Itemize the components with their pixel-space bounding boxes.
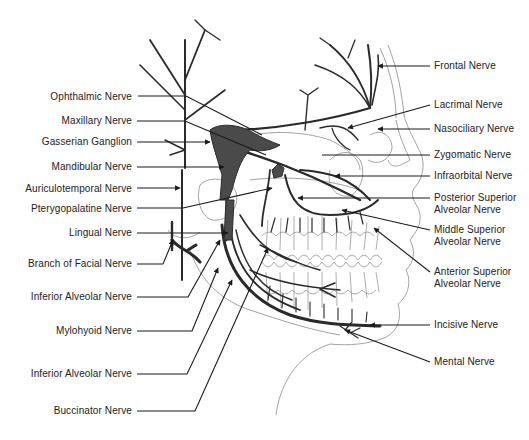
- label-line-2: Alveolar Nerve: [434, 204, 516, 216]
- label-infraorbital-nerve: Infraorbital Nerve: [434, 170, 513, 182]
- leader-anterior-superior-alveolar: [374, 228, 430, 272]
- label-buccinator-nerve: Buccinator Nerve: [54, 405, 132, 417]
- label-mylohyoid-nerve: Mylohyoid Nerve: [56, 325, 132, 337]
- label-middle-superior-alveolar-nerve: Middle Superior Alveolar Nerve: [434, 224, 506, 248]
- label-mental-nerve: Mental Nerve: [434, 356, 495, 368]
- leader-inferior-alveolar-1: [137, 240, 220, 297]
- label-lingual-nerve: Lingual Nerve: [69, 227, 132, 239]
- label-line-1: Middle Superior: [434, 224, 506, 236]
- teeth: [262, 216, 382, 310]
- label-line-1: Anterior Superior: [434, 266, 511, 278]
- leader-mental: [345, 330, 430, 362]
- label-ophthalmic-nerve: Ophthalmic Nerve: [50, 91, 132, 103]
- label-anterior-superior-alveolar-nerve: Anterior Superior Alveolar Nerve: [434, 266, 511, 290]
- leader-mylohyoid: [137, 268, 218, 331]
- label-zygomatic-nerve: Zygomatic Nerve: [434, 149, 511, 161]
- ganglion-shapes: [210, 125, 284, 240]
- label-line-1: Posterior Superior: [434, 192, 516, 204]
- label-gasserian-ganglion: Gasserian Ganglion: [42, 136, 132, 148]
- label-posterior-superior-alveolar-nerve: Posterior Superior Alveolar Nerve: [434, 192, 516, 216]
- label-mandibular-nerve: Mandibular Nerve: [51, 161, 132, 173]
- label-pterygopalatine-nerve: Pterygopalatine Nerve: [31, 203, 132, 215]
- leader-pterygopalatine: [137, 188, 272, 208]
- label-nasociliary-nerve: Nasociliary Nerve: [434, 123, 514, 135]
- label-inferior-alveolar-nerve-1: Inferior Alveolar Nerve: [31, 291, 132, 303]
- label-frontal-nerve: Frontal Nerve: [434, 60, 496, 72]
- leader-lacrimal: [348, 105, 430, 128]
- face-outline: [168, 45, 423, 415]
- label-incisive-nerve: Incisive Nerve: [434, 319, 498, 331]
- label-maxillary-nerve: Maxillary Nerve: [62, 115, 132, 127]
- label-branch-of-facial-nerve: Branch of Facial Nerve: [28, 258, 132, 270]
- label-auriculotemporal-nerve: Auriculotemporal Nerve: [25, 183, 132, 195]
- label-inferior-alveolar-nerve-2: Inferior Alveolar Nerve: [31, 368, 132, 380]
- label-line-2: Alveolar Nerve: [434, 278, 511, 290]
- leader-buccinator: [137, 248, 268, 411]
- nerve-diagram: Ophthalmic Nerve Maxillary Nerve Gasseri…: [0, 0, 529, 440]
- leader-middle-superior-alveolar: [342, 210, 430, 230]
- label-lacrimal-nerve: Lacrimal Nerve: [434, 99, 503, 111]
- label-line-2: Alveolar Nerve: [434, 236, 506, 248]
- leader-facial-branch: [137, 240, 173, 264]
